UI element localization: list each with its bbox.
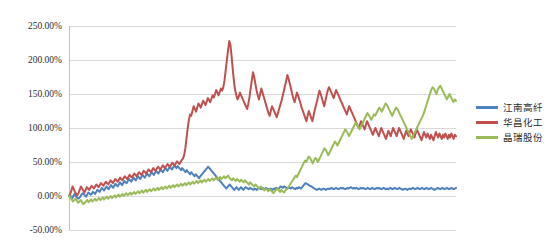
series-line: [69, 41, 456, 196]
chart-legend: 江南高纤 华昌化工 晶瑞股份: [476, 100, 559, 145]
series-line: [69, 86, 456, 204]
legend-item-jingrui[interactable]: 晶瑞股份: [476, 130, 559, 145]
legend-swatch-jiangnan: [476, 106, 498, 109]
y-axis-label-200: 200.00%: [0, 55, 62, 65]
y-axis-label-100: 100.00%: [0, 123, 62, 133]
y-axis-label-0: 0.00%: [0, 191, 62, 201]
y-axis-label-neg50: -50.00%: [0, 225, 62, 235]
legend-swatch-jingrui: [476, 136, 498, 139]
legend-label-jiangnan: 江南高纤: [503, 102, 543, 113]
y-axis-label-150: 150.00%: [0, 89, 62, 99]
legend-swatch-huachang: [476, 121, 498, 124]
legend-label-huachang: 华昌化工: [503, 117, 543, 128]
legend-item-jiangnan[interactable]: 江南高纤: [476, 100, 559, 115]
y-axis-label-250: 250.00%: [0, 21, 62, 31]
y-axis-label-50: 50.00%: [0, 157, 62, 167]
gridlines: [69, 26, 456, 230]
legend-label-jingrui: 晶瑞股份: [503, 132, 543, 143]
chart-container: 250.00% 200.00% 150.00% 100.00% 50.00% 0…: [0, 0, 559, 250]
series-lines: [69, 41, 456, 204]
legend-item-huachang[interactable]: 华昌化工: [476, 115, 559, 130]
